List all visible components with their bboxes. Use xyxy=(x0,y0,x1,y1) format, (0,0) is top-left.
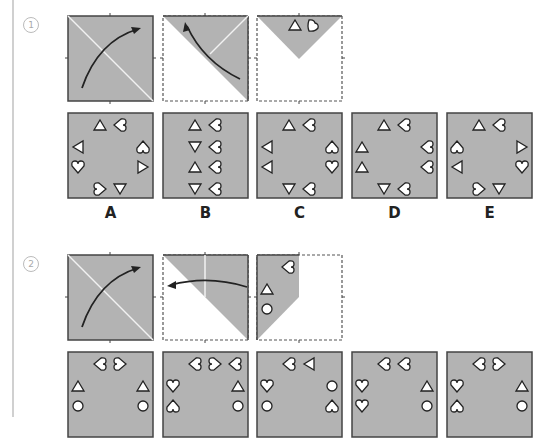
p1-option-c[interactable] xyxy=(257,113,342,198)
p1-step3-box xyxy=(257,16,342,101)
p1-option-e[interactable] xyxy=(447,113,532,198)
question-number-2: 2 xyxy=(23,256,39,272)
p1-option-c-label: C xyxy=(257,204,342,222)
p2-option-b[interactable] xyxy=(163,352,248,437)
p1-option-b[interactable] xyxy=(163,113,248,198)
p2-option-a[interactable] xyxy=(68,352,153,437)
p2-step2-box xyxy=(163,255,248,340)
question-number-1: 1 xyxy=(23,17,39,33)
p2-step1-box xyxy=(68,255,153,340)
p1-option-a-label: A xyxy=(68,204,153,222)
p2-option-e[interactable] xyxy=(447,352,532,437)
p1-option-d-label: D xyxy=(352,204,437,222)
p1-option-b-label: B xyxy=(163,204,248,222)
p1-step2-box xyxy=(163,16,248,101)
p1-option-e-label: E xyxy=(447,204,532,222)
p2-option-d[interactable] xyxy=(352,352,437,437)
p1-step1-box xyxy=(68,16,153,101)
margin-line xyxy=(12,0,14,417)
p1-option-a[interactable] xyxy=(68,113,153,198)
p2-step3-box xyxy=(257,255,342,340)
p1-option-d[interactable] xyxy=(352,113,437,198)
p2-option-c[interactable] xyxy=(257,352,342,437)
